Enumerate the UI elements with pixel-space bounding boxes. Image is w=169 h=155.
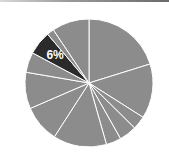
pie-slices [25, 19, 153, 147]
highlight-slice-label: 6% [46, 48, 64, 62]
pie-chart: 6% [0, 0, 169, 155]
